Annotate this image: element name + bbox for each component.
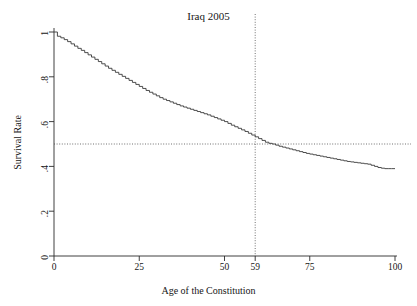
reference-lines	[54, 14, 411, 256]
y-tick-label: .6	[40, 121, 50, 145]
y-axis-title: Survival Rate	[12, 93, 23, 193]
y-tick-label: .8	[40, 76, 50, 100]
y-tick-label: .4	[40, 165, 50, 189]
survival-chart-figure: Iraq 2005 025505975100 0.2.4.6.81 Age of…	[0, 0, 417, 306]
x-tick-label: 59	[235, 262, 275, 272]
x-axis-title: Age of the Constitution	[0, 285, 417, 296]
x-tick-label: 25	[119, 262, 159, 272]
y-tick-label: 0	[40, 255, 50, 279]
chart-plot-area	[0, 0, 417, 306]
survival-curve	[54, 32, 395, 169]
y-tick-label: .2	[40, 210, 50, 234]
x-tick-label: 100	[375, 262, 415, 272]
y-tick-label: 1	[40, 31, 50, 55]
axes	[49, 28, 397, 261]
series-lines	[54, 32, 395, 169]
x-tick-label: 75	[290, 262, 330, 272]
